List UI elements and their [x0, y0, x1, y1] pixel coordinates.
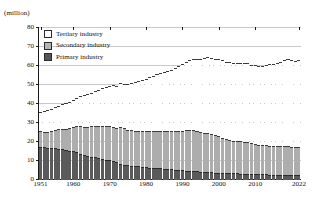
bar-column: [239, 27, 242, 179]
bar-segment-tertiary: [43, 111, 46, 132]
chart-legend: Tertiary industrySecondary industryPrima…: [44, 30, 110, 65]
bar-segment-primary: [108, 160, 111, 180]
y-axis-tick-label: 40: [4, 100, 34, 107]
bar-column: [199, 27, 202, 179]
bar-segment-tertiary: [286, 59, 289, 147]
bar-segment-tertiary: [203, 58, 206, 134]
bar-column: [112, 27, 115, 179]
bar-segment-secondary: [217, 136, 220, 173]
bar-segment-tertiary: [210, 58, 213, 135]
y-axis-unit-label: (million): [4, 9, 30, 17]
bar-segment-secondary: [283, 146, 286, 176]
bar-segment-primary: [217, 173, 220, 180]
bar-segment-tertiary: [195, 59, 198, 133]
bar-column: [152, 27, 155, 179]
bar-segment-primary: [206, 172, 209, 180]
bar-segment-primary: [50, 148, 53, 180]
bar-segment-secondary: [68, 128, 71, 152]
bar-segment-primary: [210, 172, 213, 180]
bar-segment-secondary: [192, 130, 195, 172]
bar-segment-secondary: [152, 131, 155, 169]
bar-segment-secondary: [94, 126, 97, 158]
bar-segment-secondary: [250, 143, 253, 175]
bar-segment-secondary: [97, 126, 100, 159]
bar-segment-tertiary: [68, 102, 71, 129]
bar-segment-secondary: [268, 146, 271, 176]
bar-segment-primary: [115, 162, 118, 180]
bar-segment-secondary: [72, 127, 75, 152]
bar-column: [243, 27, 246, 179]
bar-segment-tertiary: [72, 100, 75, 129]
bar-segment-tertiary: [261, 66, 264, 146]
x-axis-tick-label: 1970: [103, 180, 117, 188]
bar-segment-primary: [61, 149, 64, 180]
x-axis-tick-label: 1951: [34, 180, 48, 188]
bar-segment-tertiary: [119, 83, 122, 128]
bar-column: [126, 27, 129, 179]
bar-segment-tertiary: [166, 71, 169, 132]
bar-segment-primary: [159, 168, 162, 180]
bar-column: [246, 27, 249, 179]
x-axis-tick-mark: [41, 27, 42, 30]
bar-segment-primary: [130, 166, 133, 180]
bar-column: [141, 27, 144, 179]
bar-segment-secondary: [236, 141, 239, 174]
bar-segment-secondary: [286, 146, 289, 176]
bar-segment-primary: [236, 173, 239, 180]
x-axis-tick-label: 2000: [212, 180, 226, 188]
bar-column: [221, 27, 224, 179]
bar-segment-primary: [64, 150, 67, 180]
bar-segment-primary: [283, 175, 286, 180]
bar-segment-primary: [155, 168, 158, 180]
bar-column: [134, 27, 137, 179]
bar-segment-secondary: [112, 127, 115, 162]
bar-column: [297, 27, 300, 179]
bar-segment-tertiary: [250, 65, 253, 144]
bar-segment-secondary: [290, 147, 293, 177]
legend-item: Secondary industry: [44, 42, 110, 50]
bar-segment-primary: [90, 157, 93, 180]
bar-segment-tertiary: [163, 72, 166, 132]
bar-segment-secondary: [265, 145, 268, 175]
bar-segment-secondary: [166, 131, 169, 170]
bar-segment-primary: [39, 147, 42, 180]
x-axis-tick-label: 2022: [292, 180, 306, 188]
bar-segment-secondary: [243, 142, 246, 175]
bar-segment-primary: [272, 175, 275, 180]
legend-item-label: Tertiary industry: [56, 31, 103, 38]
bar-segment-tertiary: [90, 93, 93, 128]
bar-segment-tertiary: [61, 104, 64, 130]
bar-column: [257, 27, 260, 179]
bar-segment-primary: [94, 157, 97, 180]
bar-segment-tertiary: [64, 103, 67, 129]
bar-segment-tertiary: [246, 63, 249, 143]
bar-segment-secondary: [90, 126, 93, 157]
bar-segment-tertiary: [232, 63, 235, 142]
bar-segment-primary: [101, 159, 104, 180]
legend-item-label: Primary industry: [56, 54, 103, 61]
bar-segment-tertiary: [199, 59, 202, 134]
bar-column: [123, 27, 126, 179]
bar-segment-tertiary: [272, 64, 275, 147]
bar-segment-tertiary: [94, 91, 97, 127]
y-axis-tick-label: 10: [4, 157, 34, 164]
bar-segment-primary: [43, 147, 46, 180]
bar-segment-tertiary: [46, 110, 49, 132]
bar-segment-tertiary: [97, 90, 100, 127]
bar-column: [159, 27, 162, 179]
bar-segment-secondary: [188, 130, 191, 172]
x-axis-tick-mark: [255, 27, 256, 30]
bar-segment-secondary: [199, 132, 202, 172]
bar-segment-tertiary: [155, 74, 158, 132]
bar-segment-secondary: [130, 130, 133, 166]
bar-segment-tertiary: [294, 61, 297, 148]
bar-segment-tertiary: [177, 66, 180, 132]
bar-segment-tertiary: [239, 63, 242, 143]
bar-column: [217, 27, 220, 179]
bar-segment-tertiary: [228, 62, 231, 141]
bar-segment-primary: [119, 164, 122, 180]
y-axis-tick-label: 0: [4, 176, 34, 183]
bar-segment-primary: [166, 169, 169, 180]
bar-column: [195, 27, 198, 179]
bar-segment-secondary: [115, 128, 118, 163]
